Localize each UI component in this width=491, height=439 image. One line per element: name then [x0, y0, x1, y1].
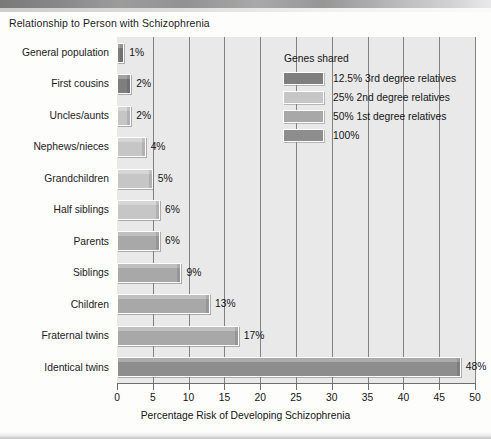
bar-row: Parents6% — [0, 226, 491, 257]
x-tick — [224, 383, 225, 390]
x-tick — [189, 383, 190, 390]
bar-shadow — [127, 107, 130, 125]
bar — [117, 43, 124, 63]
bar-shadow — [156, 201, 159, 219]
x-tick — [368, 383, 369, 390]
bar-highlight — [118, 170, 152, 174]
bar-value-label: 9% — [186, 263, 201, 283]
x-tick-label: 5 — [150, 392, 156, 403]
category-label: Parents — [74, 226, 110, 257]
legend-item: 100% — [283, 128, 469, 142]
bar-row: Grandchildren5% — [0, 163, 491, 194]
legend-item: 12.5% 3rd degree relatives — [283, 71, 469, 85]
x-tick-label: 15 — [219, 392, 230, 403]
bar-highlight — [118, 358, 460, 362]
bar — [117, 200, 160, 220]
bar-shadow — [177, 264, 180, 282]
x-tick — [332, 383, 333, 390]
bar-shadow — [142, 138, 145, 156]
bar — [117, 263, 181, 283]
category-label: Uncles/aunts — [49, 100, 109, 131]
x-tick-label: 25 — [290, 392, 301, 403]
chart-figure: Relationship to Person with Schizophreni… — [0, 9, 491, 432]
category-label: First cousins — [51, 68, 109, 99]
bar-value-label: 4% — [151, 137, 166, 157]
x-tick-label: 40 — [398, 392, 409, 403]
bar-highlight — [118, 201, 159, 205]
scan-edge-artifact-top — [0, 0, 491, 9]
x-tick — [260, 383, 261, 390]
bar-shadow — [149, 170, 152, 188]
bar — [117, 294, 210, 314]
x-tick-label: 20 — [254, 392, 265, 403]
category-label: Identical twins — [44, 352, 109, 383]
bar-value-label: 48% — [466, 357, 487, 377]
bar-value-label: 13% — [215, 294, 236, 314]
scan-edge-artifact-bottom — [0, 432, 491, 439]
bar-highlight — [118, 138, 145, 142]
bar-row: Half siblings6% — [0, 194, 491, 225]
bar-value-label: 5% — [158, 169, 173, 189]
bar — [117, 74, 131, 94]
bar — [117, 169, 153, 189]
x-tick — [153, 383, 154, 390]
legend-title: Genes shared — [284, 53, 469, 64]
bar-highlight — [118, 264, 180, 268]
bar-value-label: 17% — [244, 326, 265, 346]
legend-swatch — [283, 129, 324, 142]
x-tick-label: 45 — [433, 392, 444, 403]
bar-shadow — [127, 75, 130, 93]
x-tick-label: 0 — [114, 392, 120, 403]
bar-value-label: 6% — [165, 200, 180, 220]
x-tick — [475, 383, 476, 390]
bar-row: Children13% — [0, 289, 491, 320]
legend-items: 12.5% 3rd degree relatives25% 2nd degree… — [283, 71, 469, 142]
x-tick-label: 30 — [326, 392, 337, 403]
category-label: Children — [71, 289, 109, 320]
bar-highlight — [118, 295, 209, 299]
bar-highlight — [118, 232, 159, 236]
bar-row: Siblings9% — [0, 257, 491, 288]
bar-row: Fraternal twins17% — [0, 320, 491, 351]
x-tick — [296, 383, 297, 390]
category-label: Grandchildren — [44, 163, 109, 194]
chart-title: Relationship to Person with Schizophreni… — [9, 17, 210, 29]
legend-swatch — [283, 110, 324, 123]
legend-label: 50% 1st degree relatives — [333, 111, 446, 122]
bar — [117, 357, 461, 377]
category-label: General population — [22, 37, 109, 68]
legend-swatch — [283, 72, 324, 85]
bar-row: Identical twins48% — [0, 352, 491, 383]
bar-shadow — [120, 44, 123, 62]
bar-shadow — [235, 327, 238, 345]
bar-highlight — [118, 327, 238, 331]
category-label: Half siblings — [53, 194, 109, 225]
legend-item: 25% 2nd degree relatives — [283, 90, 469, 104]
x-tick-label: 50 — [469, 392, 480, 403]
x-tick-label: 10 — [183, 392, 194, 403]
bar-shadow — [156, 232, 159, 250]
legend-item: 50% 1st degree relatives — [283, 109, 469, 123]
legend-swatch — [283, 91, 324, 104]
legend-label: 25% 2nd degree relatives — [333, 92, 450, 103]
category-label: Siblings — [73, 257, 109, 288]
category-label: Fraternal twins — [41, 320, 109, 351]
bar-shadow — [457, 358, 460, 376]
legend: Genes shared 12.5% 3rd degree relatives2… — [283, 53, 469, 147]
bar — [117, 137, 146, 157]
bar — [117, 231, 160, 251]
x-tick — [439, 383, 440, 390]
bar — [117, 326, 239, 346]
bar — [117, 106, 131, 126]
x-axis-title: Percentage Risk of Developing Schizophre… — [0, 410, 491, 421]
x-tick-label: 35 — [362, 392, 373, 403]
bar-value-label: 2% — [136, 74, 151, 94]
bar-shadow — [206, 295, 209, 313]
x-tick — [403, 383, 404, 390]
legend-label: 12.5% 3rd degree relatives — [333, 73, 456, 84]
legend-label: 100% — [333, 130, 359, 141]
bar-value-label: 2% — [136, 106, 151, 126]
category-label: Nephews/nieces — [33, 131, 109, 162]
bar-value-label: 6% — [165, 231, 180, 251]
bar-value-label: 1% — [129, 43, 144, 63]
